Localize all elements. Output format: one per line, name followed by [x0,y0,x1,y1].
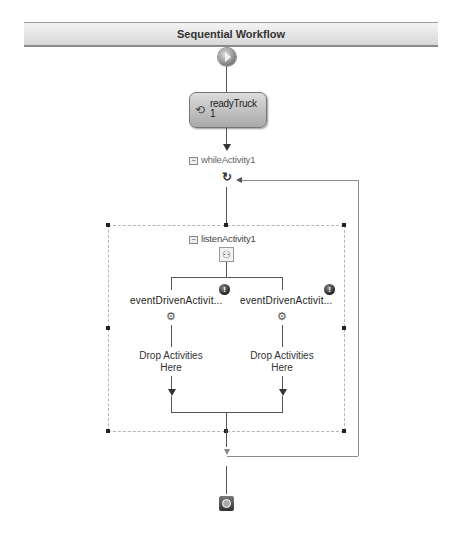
event-driven-icon: ⚙ [275,310,289,322]
arrow-down-icon [223,144,231,151]
drop-zone-2[interactable]: Drop Activities Here [247,350,317,374]
connector-branch2 [282,325,283,347]
connector-while-listen [226,187,227,224]
activity-readytruck1[interactable]: ⟲ readyTruck 1 [189,92,267,128]
drop-zone-1[interactable]: Drop Activities Here [136,350,206,374]
warning-icon[interactable]: ! [324,284,335,295]
connector-activity-while [226,127,227,145]
merge-left [171,396,172,412]
event-driven-icon: ⚙ [164,310,178,322]
connector-end [226,466,227,494]
resize-handle-bottom-right[interactable] [342,429,346,433]
connector-start-activity [226,67,227,92]
listen-icon: ⚇ [219,247,234,262]
event-driven-label-1[interactable]: eventDrivenActivit... [130,295,223,306]
event-driven-label-2[interactable]: eventDrivenActivit... [240,295,333,306]
merge-right [282,396,283,412]
activity-label: readyTruck 1 [210,99,257,119]
resize-handle-top-right[interactable] [342,223,346,227]
loop-back-bottom [227,456,358,457]
connector-listen-split [226,262,227,277]
warning-icon[interactable]: ! [219,284,230,295]
end-icon[interactable] [219,496,234,511]
loop-back-right [358,180,359,456]
branch-split-line [171,277,283,278]
arrow-down-icon [279,389,287,396]
workflow-title: Sequential Workflow [177,28,285,40]
loop-icon: ↻ [221,172,232,183]
loop-back-top [242,180,358,181]
resize-handle-middle-left[interactable] [106,326,110,330]
workflow-header: Sequential Workflow [24,22,438,47]
listen-activity-label[interactable]: listenActivity1 [201,233,256,244]
resize-handle-bottom-left[interactable] [106,429,110,433]
branch-merge-line [171,412,283,413]
code-activity-icon: ⟲ [195,104,207,116]
resize-handle-middle-right[interactable] [342,326,346,330]
resize-handle-top-center[interactable] [224,223,228,227]
branch-left-drop [171,277,172,290]
arrow-down-icon [224,449,230,455]
connector-branch1 [171,325,172,347]
start-icon[interactable] [218,48,236,66]
arrow-down-icon [168,389,176,396]
resize-handle-top-left[interactable] [106,223,110,227]
collapse-while-button[interactable]: − [189,157,198,165]
collapse-listen-button[interactable]: − [189,236,198,244]
while-activity-label[interactable]: whileActivity1 [201,154,255,165]
branch-right-drop [282,277,283,290]
connector-merge-down [226,412,227,447]
